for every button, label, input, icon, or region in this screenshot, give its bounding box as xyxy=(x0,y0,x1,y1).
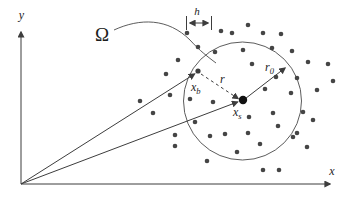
node-dot xyxy=(138,99,143,104)
node-dot xyxy=(291,135,296,140)
node-dot xyxy=(213,50,218,55)
label-xs: xs xyxy=(232,105,242,121)
node-dot xyxy=(235,150,240,155)
node-dot xyxy=(230,31,235,36)
point-labels: xb xs r r0 xyxy=(190,60,275,121)
node-dot xyxy=(311,118,316,123)
node-dot xyxy=(315,88,320,93)
node-dot xyxy=(246,23,251,28)
node-dot xyxy=(168,93,173,98)
node-dot xyxy=(290,49,295,54)
omega-label: Ω xyxy=(95,24,109,45)
node-dot xyxy=(188,97,193,102)
domain-annotation: Ω xyxy=(95,22,216,63)
node-dot xyxy=(173,133,178,138)
node-dot xyxy=(211,100,216,105)
node-dot xyxy=(196,45,201,50)
vector-to-xs xyxy=(21,102,238,184)
figure-svg: x y Ω h xb xs xyxy=(0,0,350,200)
node-dot xyxy=(246,131,251,136)
node-dot xyxy=(164,72,169,77)
node-dot xyxy=(271,111,276,116)
node-dot xyxy=(289,91,294,96)
vector-to-xb xyxy=(21,74,195,184)
label-xb: xb xyxy=(190,80,201,96)
node-dot xyxy=(301,110,306,115)
node-dot xyxy=(185,31,190,36)
node-dot xyxy=(258,142,263,147)
node-dot xyxy=(176,58,181,63)
node-dot xyxy=(326,62,331,67)
x-axis-label: x xyxy=(328,164,335,178)
boundary-node-xb-dot xyxy=(195,68,200,73)
node-dot xyxy=(173,144,178,149)
center-node-xs-dot xyxy=(239,96,247,104)
node-dot xyxy=(277,168,282,173)
node-dot xyxy=(331,79,336,84)
y-axis-label: y xyxy=(18,8,25,22)
vectors xyxy=(21,68,285,184)
spacing-dimension: h xyxy=(187,5,212,30)
omega-leader-line xyxy=(114,22,216,63)
node-dot xyxy=(261,168,266,173)
label-xs-sub: s xyxy=(238,111,242,121)
node-dot xyxy=(241,48,246,53)
node-dot xyxy=(247,115,252,120)
node-dot xyxy=(208,134,213,139)
node-dot xyxy=(270,46,275,51)
node-dot xyxy=(151,111,156,116)
node-dot xyxy=(250,62,255,67)
node-dot xyxy=(205,159,210,164)
node-dot xyxy=(306,60,311,65)
label-r: r xyxy=(220,72,225,86)
label-r0: r0 xyxy=(265,60,275,76)
node-dot xyxy=(193,120,198,125)
node-dot xyxy=(279,32,284,37)
node-dot xyxy=(295,131,300,136)
node-dot xyxy=(295,76,300,81)
label-r0-sub: 0 xyxy=(270,66,275,76)
spacing-label: h xyxy=(194,5,200,17)
node-dot xyxy=(263,87,268,92)
axes: x y xyxy=(18,8,336,184)
node-dot xyxy=(261,31,266,36)
node-dot xyxy=(305,145,310,150)
label-xb-sub: b xyxy=(196,86,200,96)
node-dot xyxy=(223,132,228,137)
node-dot xyxy=(276,124,281,129)
meshfree-domain-figure: x y Ω h xb xs xyxy=(0,0,350,200)
node-dot xyxy=(219,29,224,34)
